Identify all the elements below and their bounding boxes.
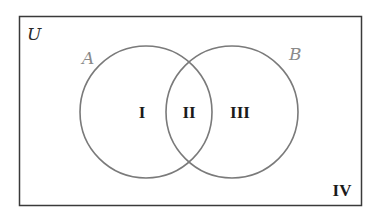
set-a-label: A xyxy=(80,48,94,68)
region-ii-label: II xyxy=(182,103,196,122)
region-iv-label: IV xyxy=(333,181,353,200)
region-iii-label: III xyxy=(230,103,250,122)
venn-diagram: U A B I II III IV xyxy=(0,0,380,221)
set-b-label: B xyxy=(288,44,302,64)
region-i-label: I xyxy=(139,103,146,122)
universe-label: U xyxy=(27,24,42,44)
